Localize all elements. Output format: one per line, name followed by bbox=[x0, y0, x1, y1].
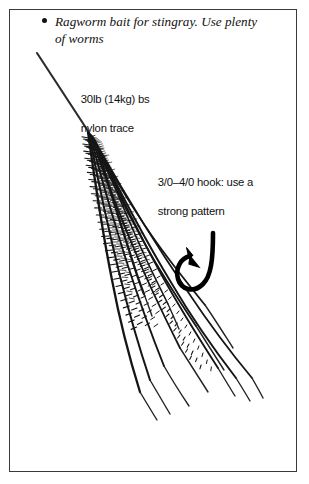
trace-label: 30lb (14kg) bs nylon trace bbox=[69, 77, 150, 150]
trace-label-line1: 30lb (14kg) bs bbox=[81, 93, 150, 105]
trace-label-line2: nylon trace bbox=[81, 122, 134, 134]
ragworm-bait-illustration bbox=[0, 0, 309, 484]
illustration-page: Ragworm bait for stingray. Use plenty of… bbox=[0, 0, 309, 484]
caption-bullet-icon bbox=[42, 18, 47, 23]
fish-hook bbox=[177, 233, 213, 289]
hook-label-line2: strong pattern bbox=[158, 205, 225, 217]
hook-label: 3/0–4/0 hook: use a strong pattern bbox=[146, 160, 253, 233]
caption-text: Ragworm bait for stingray. Use plenty of… bbox=[55, 14, 270, 47]
hook-label-line1: 3/0–4/0 hook: use a bbox=[158, 176, 253, 188]
